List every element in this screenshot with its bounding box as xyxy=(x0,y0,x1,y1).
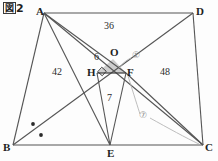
segment-a-to-e xyxy=(44,13,110,145)
callout-circled-one: ① xyxy=(132,51,140,60)
segment-h-to-e xyxy=(97,73,110,145)
segment-f-to-e xyxy=(110,73,126,145)
angle-dot-upper xyxy=(31,122,35,126)
vertex-label-d: D xyxy=(196,6,204,17)
area-label-left: 42 xyxy=(52,67,62,77)
area-label-top: 36 xyxy=(104,21,114,31)
angle-dot-lower xyxy=(39,133,43,137)
vertex-label-o: O xyxy=(110,47,119,58)
vertex-label-e: E xyxy=(107,148,114,159)
area-label-right: 48 xyxy=(160,67,170,77)
vertex-label-b: B xyxy=(3,142,10,153)
segment-f-to-c xyxy=(126,73,203,145)
segment-dc xyxy=(193,13,203,145)
vertex-label-a: A xyxy=(36,6,44,17)
geometry-figure: 図2 A D B C E xyxy=(0,0,218,161)
callout-circled-seven: ⑦ xyxy=(139,111,147,120)
diagonal-bd xyxy=(13,13,193,145)
vertex-label-c: C xyxy=(205,142,213,153)
area-label-lower: 7 xyxy=(107,93,112,103)
area-label-small-upper: 6 xyxy=(94,52,99,62)
vertex-label-f: F xyxy=(127,67,134,78)
diagonal-ac xyxy=(44,13,203,145)
vertex-label-h: H xyxy=(87,67,96,78)
leader-line-circled-seven xyxy=(128,76,140,114)
